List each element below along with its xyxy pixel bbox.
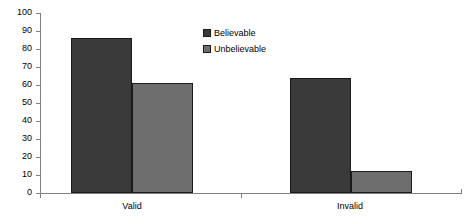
y-axis-tick-mark [36, 85, 40, 86]
x-axis-line [40, 193, 462, 194]
bar-invalid-believable [290, 78, 351, 193]
bar-valid-believable [71, 38, 132, 193]
y-axis-tick-mark [36, 121, 40, 122]
y-axis-tick-mark [36, 31, 40, 32]
y-axis-tick-label: 50 [22, 97, 32, 107]
y-axis-tick-mark [36, 139, 40, 140]
y-axis-tick-label: 80 [22, 43, 32, 53]
legend-item-unbelievable[interactable]: Unbelievable [203, 42, 266, 55]
legend-label: Unbelievable [214, 44, 266, 54]
legend-label: Believable [214, 28, 256, 38]
x-axis-tick-mark [40, 193, 41, 198]
legend-swatch-icon [203, 29, 211, 37]
legend-item-believable[interactable]: Believable [203, 26, 266, 39]
x-axis-category-label-invalid: Invalid [310, 201, 390, 212]
y-axis-tick-label: 10 [22, 169, 32, 179]
y-axis-tick-mark [36, 157, 40, 158]
legend-swatch-icon [203, 45, 211, 53]
bar-chart: 1009080706050403020100 ValidInvalid Beli… [0, 0, 468, 224]
y-axis-tick-label: 100 [17, 7, 32, 17]
x-axis-end-tick [461, 189, 462, 194]
x-axis-tick-mark [241, 193, 242, 198]
y-axis-tick-mark [36, 13, 40, 14]
y-axis-tick-mark [36, 67, 40, 68]
y-axis-tick-label: 40 [22, 115, 32, 125]
y-axis-tick-label: 30 [22, 133, 32, 143]
y-axis-tick-label: 70 [22, 61, 32, 71]
y-axis-tick-mark [36, 103, 40, 104]
x-axis-category-label-valid: Valid [92, 201, 172, 212]
chart-legend: BelievableUnbelievable [203, 26, 266, 58]
bar-invalid-unbelievable [351, 171, 412, 193]
y-axis-line [40, 13, 41, 194]
y-axis-tick-label: 90 [22, 25, 32, 35]
bar-valid-unbelievable [132, 83, 193, 193]
y-axis-tick-label: 0 [27, 187, 32, 197]
y-axis-tick-mark [36, 49, 40, 50]
y-axis-tick-label: 20 [22, 151, 32, 161]
y-axis-tick-label: 60 [22, 79, 32, 89]
y-axis-tick-mark [36, 175, 40, 176]
